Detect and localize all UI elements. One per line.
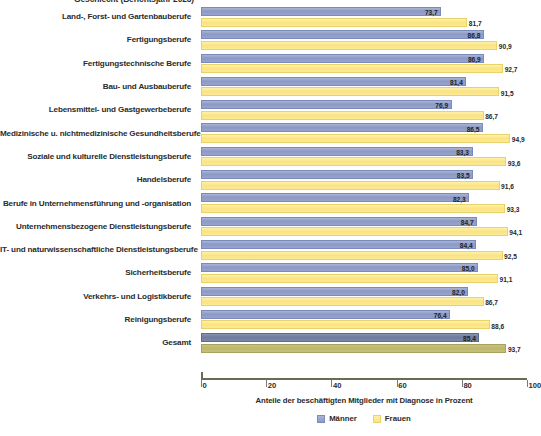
x-tick-label: 20: [268, 381, 276, 390]
bar-value-label: 84,7: [461, 218, 474, 227]
bar-value-label: 91,1: [499, 275, 512, 284]
bar-track: 88,6: [201, 320, 527, 329]
bar-value-label: 92,5: [504, 252, 517, 261]
category-label: Unternehmensbezogene Dienstleistungsberu…: [0, 223, 196, 232]
bar-value-label: 83,3: [456, 148, 469, 157]
bar-pair: 82,086,7: [201, 287, 527, 308]
bar-value-label: 81,4: [450, 78, 463, 87]
category-label: IT- und naturwissenschaftliche Dienstlei…: [0, 246, 196, 255]
bar-track: 84,4: [201, 240, 527, 249]
bar-value-label: 86,7: [485, 298, 498, 307]
x-tick-label: 60: [398, 381, 406, 390]
bar-row: Unternehmensbezogene Dienstleistungsberu…: [0, 216, 527, 239]
chart-legend: MännerFrauen: [201, 414, 527, 423]
bar-track: 83,3: [201, 147, 527, 156]
category-label: Verkehrs- und Logistikberufe: [0, 293, 196, 302]
bar-frauen: 86,7: [201, 111, 484, 120]
bar-row: Verkehrs- und Logistikberufe82,086,7: [0, 286, 527, 309]
bar-track: 83,5: [201, 170, 527, 179]
bar-track: 93,6: [201, 157, 527, 166]
bar-value-label: 86,8: [468, 31, 481, 40]
bar-row: Handelsberufe83,591,6: [0, 169, 527, 192]
bar-value-label: 90,9: [499, 42, 512, 51]
bar-value-label: 82,3: [453, 195, 466, 204]
bar-value-label: 86,9: [468, 55, 481, 64]
bar-row: IT- und naturwissenschaftliche Dienstlei…: [0, 239, 527, 262]
bar-value-label: 82,0: [452, 288, 465, 297]
bar-maenner: 84,7: [201, 217, 477, 226]
bar-maenner: 86,5: [201, 123, 483, 132]
category-label: Soziale und kulturelle Dienstleistungsbe…: [0, 153, 196, 162]
x-tick-label: 40: [333, 381, 341, 390]
bar-frauen: 93,3: [201, 204, 505, 213]
bar-value-label: 76,9: [435, 101, 448, 110]
bar-track: 81,7: [201, 18, 527, 27]
bar-value-label: 86,7: [485, 112, 498, 121]
bar-frauen: 91,6: [201, 181, 500, 190]
bar-row: Fertigungsberufe86,890,9: [0, 29, 527, 52]
bar-maenner: 83,5: [201, 170, 473, 179]
plot-area: Land-, Forst- und Gartenbauberufe73,781,…: [0, 6, 527, 378]
bar-frauen: 94,1: [201, 227, 508, 236]
bar-frauen: 92,5: [201, 251, 503, 260]
x-tick-label: 80: [463, 381, 471, 390]
x-axis-origin-cap: [201, 372, 203, 380]
bar-maenner: 82,0: [201, 287, 468, 296]
legend-item-frauen[interactable]: Frauen: [373, 414, 411, 423]
bar-row: Reinigungsberufe76,488,6: [0, 309, 527, 332]
bar-maenner: 76,4: [201, 310, 450, 319]
bar-maenner: 84,4: [201, 240, 476, 249]
legend-item-maenner[interactable]: Männer: [317, 414, 357, 423]
bar-pair: 85,091,1: [201, 263, 527, 284]
bar-track: 94,1: [201, 227, 527, 236]
bar-frauen: 81,7: [201, 18, 467, 27]
bar-track: 92,7: [201, 64, 527, 73]
legend-swatch-maenner: [317, 415, 325, 423]
bar-pair: 73,781,7: [201, 7, 527, 28]
bar-value-label: 76,4: [434, 311, 447, 320]
bar-value-label: 85,4: [463, 334, 476, 343]
bar-track: 76,4: [201, 310, 527, 319]
bar-value-label: 73,7: [425, 8, 438, 17]
bar-maenner: 85,0: [201, 263, 478, 272]
bar-track: 91,6: [201, 181, 527, 190]
bar-pair: 86,594,9: [201, 123, 527, 144]
bar-track: 85,0: [201, 263, 527, 272]
x-axis-caption: Anteile der beschäftigten Mitglieder mit…: [201, 396, 527, 405]
bar-value-label: 93,6: [508, 159, 521, 168]
bar-pair: 81,491,5: [201, 77, 527, 98]
bar-track: 94,9: [201, 134, 527, 143]
category-label: Berufe in Unternehmensführung und -organ…: [0, 200, 196, 209]
bar-maenner: 82,3: [201, 193, 469, 202]
x-axis-ticks: 020406080100: [201, 380, 527, 394]
bar-value-label: 94,1: [509, 228, 522, 237]
bar-row: Gesamt85,493,7: [0, 332, 527, 355]
bar-track: 90,9: [201, 41, 527, 50]
bar-value-label: 94,9: [512, 135, 525, 144]
bar-track: 86,8: [201, 30, 527, 39]
bar-value-label: 81,7: [469, 19, 482, 28]
bar-row: Soziale und kulturelle Dienstleistungsbe…: [0, 146, 527, 169]
bar-pair: 83,393,6: [201, 147, 527, 168]
bar-track: 86,5: [201, 123, 527, 132]
bar-value-label: 84,4: [460, 241, 473, 250]
bar-frauen: 93,6: [201, 157, 506, 166]
bar-frauen: 92,7: [201, 64, 503, 73]
bar-frauen: 94,9: [201, 134, 510, 143]
bar-track: 81,4: [201, 77, 527, 86]
bar-frauen: 90,9: [201, 41, 497, 50]
bar-track: 86,7: [201, 297, 527, 306]
bar-track: 85,4: [201, 333, 527, 342]
bar-frauen: 91,5: [201, 87, 499, 96]
bar-pair: 85,493,7: [201, 333, 527, 354]
bar-maenner: 76,9: [201, 100, 452, 109]
bar-pair: 86,992,7: [201, 54, 527, 75]
bar-maenner: 85,4: [201, 333, 479, 342]
bar-track: 86,7: [201, 111, 527, 120]
bar-row: Lebensmittel- und Gastgewerbeberufe76,98…: [0, 99, 527, 122]
bar-pair: 86,890,9: [201, 30, 527, 51]
category-label: Sicherheitsberufe: [0, 269, 196, 278]
category-label: Lebensmittel- und Gastgewerbeberufe: [0, 106, 196, 115]
bar-frauen: 93,7: [201, 344, 506, 353]
